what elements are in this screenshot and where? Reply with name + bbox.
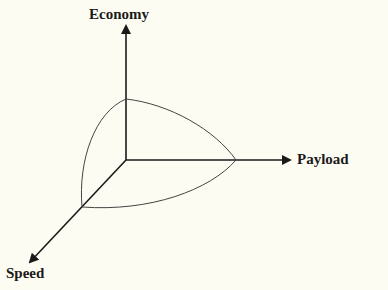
economy-speed-curve	[81, 99, 126, 207]
tradeoff-diagram	[0, 0, 388, 290]
payload-label: Payload	[297, 151, 349, 168]
economy-payload-curve	[126, 99, 236, 160]
payload-speed-curve	[82, 160, 236, 208]
speed-label: Speed	[6, 265, 44, 282]
envelope-curves	[81, 99, 236, 208]
economy-label: Economy	[89, 6, 149, 23]
speed-axis	[30, 160, 126, 262]
axes	[30, 26, 290, 262]
